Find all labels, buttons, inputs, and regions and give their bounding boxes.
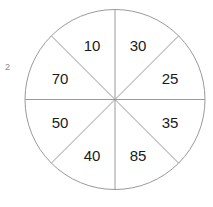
figure-index-label: 2 bbox=[5, 62, 10, 73]
sector-value-label: 70 bbox=[52, 71, 69, 86]
sector-value-label: 40 bbox=[84, 148, 101, 163]
spinner-figure: 2 3025358540507010 bbox=[0, 0, 213, 207]
sector-value-label: 35 bbox=[162, 115, 179, 130]
sector-value-label: 30 bbox=[130, 38, 147, 53]
spinner-geometry bbox=[25, 10, 205, 190]
sector-value-label: 10 bbox=[84, 38, 101, 53]
sector-value-label: 85 bbox=[130, 148, 147, 163]
sector-value-label: 25 bbox=[162, 71, 179, 86]
sector-value-label: 50 bbox=[52, 115, 69, 130]
spinner-diagram bbox=[0, 0, 213, 207]
